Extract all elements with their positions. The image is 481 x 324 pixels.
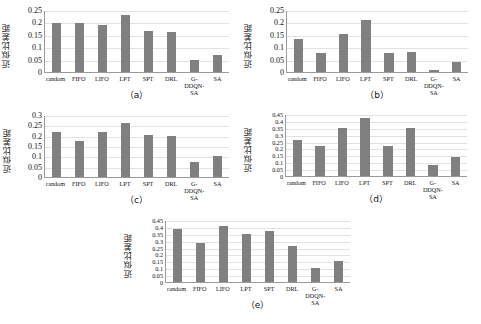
y-tick-label: 0.4	[155, 225, 163, 231]
plot-area-e	[165, 221, 350, 283]
y-tick-label: 0.25	[152, 245, 163, 251]
bar-cell	[235, 221, 258, 282]
y-axis-ticks-e: 00.050.10.150.20.250.30.350.40.45	[135, 220, 163, 284]
bar-lifo	[219, 226, 229, 282]
bar-fifo	[196, 243, 206, 282]
y-tick-label: 0.35	[152, 232, 163, 238]
bar-cell	[258, 221, 281, 282]
y-tick-label: 0.15	[152, 259, 163, 265]
y-tick-label: 0	[160, 280, 163, 286]
bar-g-ddqn-sa	[311, 268, 321, 282]
bar-spt	[265, 231, 275, 282]
bar-cell	[189, 221, 212, 282]
bar-series-e	[166, 221, 350, 282]
bar-sa	[334, 261, 344, 282]
bar-lpt	[242, 234, 252, 282]
bar-cell	[212, 221, 235, 282]
y-tick-label: 0.1	[155, 266, 163, 272]
y-tick-label: 0.3	[155, 239, 163, 245]
bar-cell	[327, 221, 350, 282]
y-tick-label: 0.05	[152, 273, 163, 279]
bar-cell	[304, 221, 327, 282]
chart-panel-e: 近似比差距00.050.10.150.20.250.30.350.40.45ra…	[0, 0, 481, 324]
y-tick-label: 0.2	[155, 252, 163, 258]
y-tick-label: 0.45	[152, 218, 163, 224]
y-axis-label-e: 近似比差距	[125, 226, 134, 286]
bar-drl	[288, 246, 298, 282]
panel-caption-e: （e）	[165, 298, 350, 311]
bar-cell	[166, 221, 189, 282]
bar-random	[173, 229, 183, 282]
bar-cell	[281, 221, 304, 282]
